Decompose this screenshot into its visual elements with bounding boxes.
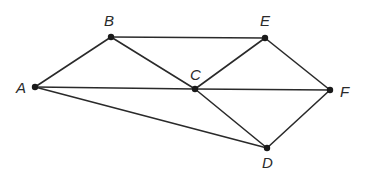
node-label-f: F (340, 83, 350, 100)
node-b (108, 34, 114, 40)
node-labels: ABCEFD (15, 12, 350, 171)
edge-a-c (35, 87, 195, 89)
node-label-d: D (262, 154, 273, 171)
node-e (262, 35, 268, 41)
edge-b-e (111, 37, 265, 38)
node-a (32, 84, 38, 90)
edges (35, 37, 330, 148)
edge-c-f (195, 89, 330, 90)
node-d (264, 145, 270, 151)
node-label-c: C (190, 66, 201, 83)
node-label-a: A (15, 79, 26, 96)
node-f (327, 87, 333, 93)
node-c (192, 86, 198, 92)
graph-diagram: ABCEFD (0, 0, 372, 185)
edge-a-b (35, 37, 111, 87)
edge-e-f (265, 38, 330, 90)
nodes (32, 34, 333, 151)
edge-a-d (35, 87, 267, 148)
node-label-e: E (260, 12, 271, 29)
edge-b-c (111, 37, 195, 89)
edge-c-e (195, 38, 265, 89)
edge-d-f (267, 90, 330, 148)
node-label-b: B (104, 12, 114, 29)
